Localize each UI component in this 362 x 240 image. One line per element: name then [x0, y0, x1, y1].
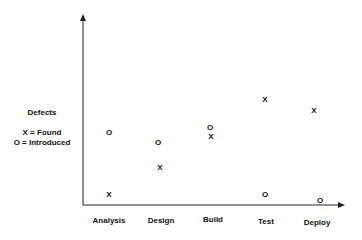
x-label-analysis: Analysis	[93, 216, 126, 225]
marker-introduced-deploy: O	[317, 197, 323, 205]
marker-introduced-build: O	[207, 124, 213, 132]
x-label-build: Build	[203, 215, 223, 224]
marker-found-test: X	[262, 96, 267, 104]
axes	[0, 0, 362, 240]
x-label-design: Design	[148, 216, 175, 225]
x-label-test: Test	[258, 217, 274, 226]
marker-found-build: X	[208, 133, 213, 141]
legend-introduced: O = Introduced	[14, 138, 71, 147]
legend-found: X = Found	[23, 128, 62, 137]
marker-introduced-design: O	[155, 139, 161, 147]
marker-introduced-test: O	[262, 191, 268, 199]
x-label-deploy: Deploy	[304, 218, 331, 227]
marker-introduced-analysis: O	[106, 129, 112, 137]
y-axis-label: Defects	[28, 108, 57, 117]
marker-found-deploy: X	[311, 107, 316, 115]
marker-found-design: X	[157, 164, 162, 172]
marker-found-analysis: X	[106, 191, 111, 199]
